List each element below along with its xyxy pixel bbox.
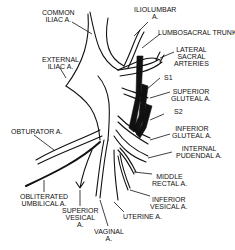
leader-obturator [34, 135, 54, 150]
label-superior-vesical: SUPERIOR VESICAL A. [62, 207, 99, 228]
uterine-vessel [114, 150, 118, 200]
leader-s1 [146, 78, 160, 90]
label-external-iliac: EXTERNAL ILIAC A. [42, 56, 79, 70]
inferior-vesical-vessel [118, 154, 130, 190]
external-iliac-vessel [90, 12, 118, 70]
vaginal-vessel [96, 140, 108, 198]
label-obliterated-umbilical: OBLITERATED UMBILICAL A. [20, 193, 68, 207]
leader-uterine [114, 202, 124, 212]
leader-middle-rectal [134, 172, 152, 174]
label-middle-rectal: MIDDLE RECTAL A. [152, 173, 187, 187]
anterior-division-vessel [66, 76, 109, 140]
label-lateral-sacral-arteries: LATERAL SACRAL ARTERIES [174, 46, 209, 67]
label-uterine: UTERINE A. [123, 213, 162, 220]
label-common-iliac: COMMON ILIAC A. [42, 9, 75, 23]
label-superior-gluteal: SUPERIOR GLUTEAL A. [171, 88, 211, 102]
leader-lateral-sacral [160, 52, 174, 58]
label-inferior-vesical: INFERIOR VESICAL A. [150, 196, 187, 210]
label-vaginal: VAGINAL A. [94, 228, 124, 242]
leader-internal-pudendal [148, 152, 172, 158]
label-obturator: OBTURATOR A. [11, 128, 62, 135]
leader-superior-gluteal [150, 92, 170, 98]
leader-common-iliac [72, 22, 92, 34]
label-lumbosacral-trunk: LUMBOSACRAL TRUNK [158, 29, 235, 36]
obturator-vessel [36, 130, 102, 164]
label-s1: S1 [164, 74, 173, 81]
internal-iliac-vessel [107, 18, 124, 66]
leader-inferior-gluteal [150, 134, 170, 140]
label-s2: S2 [174, 108, 183, 115]
leader-lumbosacral [142, 34, 160, 48]
label-inferior-gluteal: INFERIOR GLUTEAL A. [172, 125, 212, 139]
leader-inferior-vesical [130, 190, 150, 196]
leader-iliolumbar [134, 22, 148, 36]
leader-vaginal [100, 200, 108, 226]
obliterated-umbilical-vessel [26, 142, 100, 186]
leader-s2 [150, 114, 164, 120]
label-iliolumbar: ILIOLUMBAR A. [134, 6, 176, 20]
label-internal-pudendal: INTERNAL PUDENDAL A. [176, 145, 222, 159]
